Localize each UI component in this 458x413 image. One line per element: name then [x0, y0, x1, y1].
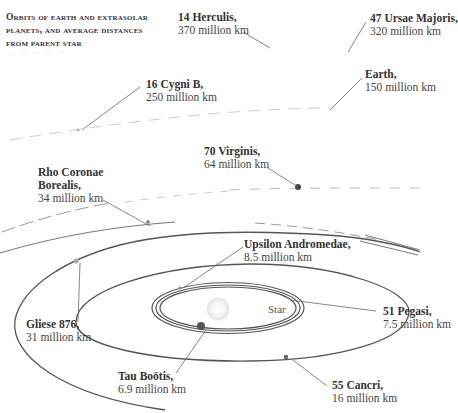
leader-gliese-876	[78, 263, 80, 322]
orbit-faint-upper-left	[2, 203, 110, 232]
label-70-virginis: 70 Virginis, 64 million km	[204, 145, 269, 171]
title-line-1: Orbits of earth and extrasolar	[6, 11, 166, 24]
planet-distance: 320 million km	[370, 25, 458, 38]
label-14-herculis: 14 Herculis, 370 million km	[178, 11, 249, 37]
planet-name: 14 Herculis,	[178, 11, 249, 24]
star-icon	[205, 296, 231, 322]
planet-distance: 34 million km	[38, 192, 103, 205]
leader-16-cygni-b	[82, 87, 140, 130]
planet-name: Tau Boötis,	[118, 370, 186, 383]
label-55-cancri: 55 Cancri, 16 million km	[332, 379, 397, 405]
leader-earth	[330, 78, 362, 110]
planet-name: 55 Cancri,	[332, 379, 397, 392]
planet-name: Upsilon Andromedae,	[244, 238, 351, 251]
label-upsilon-andromedae: Upsilon Andromedae, 8.5 million km	[244, 238, 351, 264]
planet-distance: 7.5 million km	[383, 318, 451, 331]
title-line-3: from parent star	[6, 37, 166, 50]
label-16-cygni-b: 16 Cygni B, 250 million km	[146, 78, 217, 104]
star-label: Star	[268, 303, 286, 315]
orbit-faint-top-left	[10, 52, 65, 55]
orbit-rho-coronae-borealis	[0, 222, 175, 253]
orbit-faint-upper-mid	[125, 191, 230, 202]
leader-rho-coronae-borealis	[103, 200, 150, 226]
planet-distance: 6.9 million km	[118, 383, 186, 396]
orbit-right-segment	[365, 235, 420, 250]
leader-51-pegasi	[290, 300, 376, 311]
planet-name-line-1: Rho Coronae	[38, 166, 103, 179]
planet-16-cygni-b-icon	[77, 129, 80, 132]
diagram-title: Orbits of earth and extrasolar planets, …	[6, 11, 166, 50]
planet-name: 16 Cygni B,	[146, 78, 217, 91]
label-earth: Earth, 150 million km	[365, 68, 436, 94]
planet-distance: 31 million km	[26, 331, 91, 344]
leader-tau-bootis	[176, 330, 206, 373]
planet-name: 70 Virginis,	[204, 145, 269, 158]
planet-distance: 370 million km	[178, 24, 249, 37]
planet-name: 51 Pegasi,	[383, 305, 451, 318]
planet-55-cancri-icon	[284, 355, 288, 359]
leader-55-cancri	[293, 360, 327, 386]
label-51-pegasi: 51 Pegasi, 7.5 million km	[383, 305, 451, 331]
planet-distance: 150 million km	[365, 81, 436, 94]
planet-name: 47 Ursae Majoris,	[370, 12, 458, 25]
label-47-ursae-majoris: 47 Ursae Majoris, 320 million km	[370, 12, 458, 38]
planet-upsilon-andromedae-icon	[178, 286, 182, 290]
planet-name: Earth,	[365, 68, 436, 81]
label-gliese-876: Gliese 876, 31 million km	[26, 318, 91, 344]
planet-distance: 8.5 million km	[244, 251, 351, 264]
planet-name: Gliese 876,	[26, 318, 91, 331]
label-rho-coronae-borealis: Rho Coronae Borealis, 34 million km	[38, 166, 103, 205]
orbit-55-cancri	[76, 264, 409, 361]
orbit-16-cygni-b	[10, 108, 330, 140]
leader-47-ursae-majoris	[348, 22, 366, 52]
orbit-70-virginis	[230, 188, 420, 190]
planet-tau-bootis-icon	[197, 322, 205, 330]
planet-distance: 64 million km	[204, 158, 269, 171]
label-tau-bootis: Tau Boötis, 6.9 million km	[118, 370, 186, 396]
title-line-2: planets, and average distances	[6, 24, 166, 37]
planet-distance: 16 million km	[332, 392, 397, 405]
planet-distance: 250 million km	[146, 91, 217, 104]
planet-gliese-876-icon	[74, 259, 79, 264]
leader-70-virginis	[268, 168, 298, 187]
planet-name-line-2: Borealis,	[38, 179, 103, 192]
planet-rho-coronae-borealis-icon	[146, 220, 150, 224]
